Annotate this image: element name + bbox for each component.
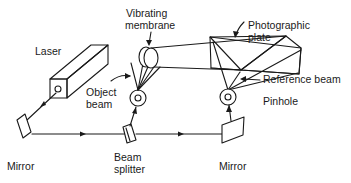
label-object-beam-1: Object (86, 87, 116, 98)
label-pinhole: Pinhole (263, 96, 298, 107)
object-beam-up (130, 107, 137, 126)
label-vibrating-membrane-2: membrane (125, 20, 175, 31)
transmitted-beam (136, 132, 224, 137)
reference-beam-up (226, 105, 232, 121)
reference-beam-pointer (240, 76, 260, 82)
main-beam (32, 132, 126, 137)
plate-pointer (233, 22, 244, 38)
label-photographic-plate-2: plate (248, 32, 271, 43)
beam-splitter (123, 124, 136, 143)
label-reference-beam: Reference beam (263, 74, 341, 85)
object-beam-pointer (111, 73, 131, 81)
label-laser: Laser (35, 46, 61, 57)
pinhole-object (130, 90, 146, 106)
vibrating-membrane (139, 47, 158, 68)
label-beam-splitter-1: Beam (114, 152, 141, 163)
pinhole-reference (220, 89, 236, 105)
label-photographic-plate-1: Photographic (248, 20, 310, 31)
mirror-right (222, 117, 244, 143)
label-mirror-left: Mirror (7, 161, 34, 172)
label-vibrating-membrane-1: Vibrating (126, 8, 167, 19)
laser-beam (27, 93, 56, 120)
label-beam-splitter-2: splitter (114, 164, 145, 175)
label-mirror-right: Mirror (219, 161, 246, 172)
label-object-beam-2: beam (86, 99, 112, 110)
membrane-pointer (146, 32, 152, 46)
